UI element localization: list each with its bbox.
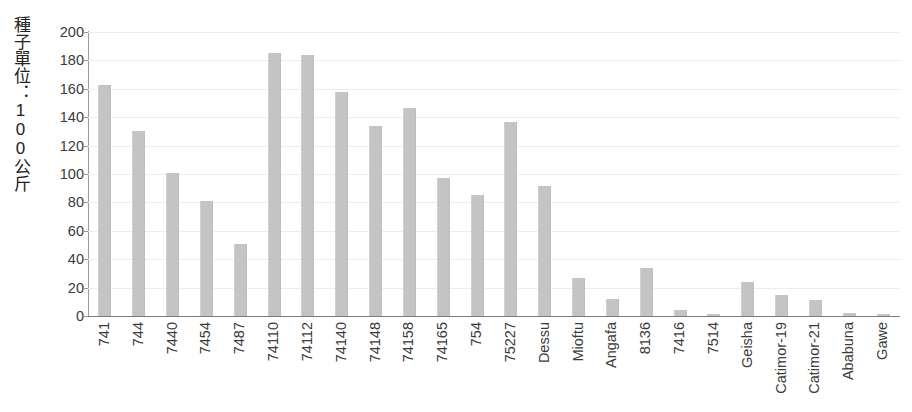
x-tick-label-wrap: Catimor-19 xyxy=(774,322,790,406)
x-tick-label: Mioftu xyxy=(571,322,586,362)
x-tick-label: 74112 xyxy=(300,322,315,361)
bar xyxy=(98,85,111,316)
y-tick-label: 100 xyxy=(50,167,84,182)
x-tick-label: 74165 xyxy=(435,322,450,362)
y-axis-title: 種子單位：100公斤 xyxy=(2,16,30,316)
bar xyxy=(707,314,720,316)
bottom-caption xyxy=(170,406,500,412)
x-tick-label-wrap: 8136 xyxy=(638,322,654,406)
x-tick-label-wrap: 7416 xyxy=(672,322,688,406)
y-tick-mark xyxy=(83,117,88,118)
x-tick-label: 8136 xyxy=(638,322,653,354)
y-tick-mark xyxy=(83,60,88,61)
x-tick-label-wrap: 75227 xyxy=(503,322,519,406)
bar xyxy=(843,313,856,316)
x-tick-label-wrap: 74112 xyxy=(300,322,316,406)
x-tick-label: 74158 xyxy=(401,322,416,362)
y-tick-mark xyxy=(83,146,88,147)
y-tick-label: 200 xyxy=(50,25,84,40)
bar xyxy=(234,244,247,316)
x-tick-label: 7440 xyxy=(165,322,180,354)
bar xyxy=(504,122,517,316)
x-tick-label: 754 xyxy=(469,322,484,346)
y-tick-mark xyxy=(83,259,88,260)
y-tick-mark xyxy=(83,316,88,317)
y-tick-mark xyxy=(83,174,88,175)
bar xyxy=(403,108,416,316)
x-tick-label-wrap: 7454 xyxy=(198,322,214,406)
bar xyxy=(640,268,653,316)
y-tick-label: 140 xyxy=(50,110,84,125)
y-tick-label: 180 xyxy=(50,53,84,68)
x-tick-label-wrap: Angafa xyxy=(604,322,620,406)
gridline xyxy=(88,32,900,33)
x-tick-label: 7514 xyxy=(706,322,721,354)
x-tick-label-wrap: Catimor-21 xyxy=(807,322,823,406)
y-tick-label: 160 xyxy=(50,82,84,97)
bar xyxy=(471,195,484,316)
x-tick-label: Geisha xyxy=(740,322,755,368)
bar xyxy=(741,282,754,316)
x-tick-label: 744 xyxy=(131,322,146,346)
x-tick-label-wrap: 74110 xyxy=(266,322,282,406)
x-tick-label: 741 xyxy=(97,322,112,346)
bar xyxy=(335,92,348,316)
bar xyxy=(437,178,450,316)
x-tick-label-wrap: 7440 xyxy=(165,322,181,406)
x-tick-label-wrap: 74158 xyxy=(401,322,417,406)
x-tick-label: 74148 xyxy=(368,322,383,362)
bar-chart: 種子單位：100公斤 020406080100120140160180200 7… xyxy=(0,0,912,412)
x-tick-label: Angafa xyxy=(604,322,619,368)
x-tick-label: 7416 xyxy=(672,322,687,354)
bar xyxy=(166,173,179,316)
x-tick-label: Dessu xyxy=(537,322,552,363)
y-tick-label: 120 xyxy=(50,138,84,153)
bar xyxy=(809,300,822,316)
x-tick-label-wrap: 74165 xyxy=(435,322,451,406)
y-tick-label: 40 xyxy=(50,252,84,267)
x-axis-tick-labels: 7417447440745474877411074112741407414874… xyxy=(88,320,900,406)
x-tick-label-wrap: Gawe xyxy=(875,322,891,406)
x-axis-line xyxy=(88,316,900,317)
x-tick-label: 7454 xyxy=(198,322,213,354)
bar xyxy=(877,314,890,316)
x-tick-label: Ababuna xyxy=(841,322,856,380)
bar xyxy=(132,131,145,316)
y-tick-label: 60 xyxy=(50,224,84,239)
plot-area xyxy=(88,32,900,316)
x-tick-label-wrap: 741 xyxy=(97,322,113,406)
gridline xyxy=(88,117,900,118)
x-tick-label-wrap: Ababuna xyxy=(841,322,857,406)
bar xyxy=(369,126,382,316)
x-tick-label-wrap: Mioftu xyxy=(571,322,587,406)
bar xyxy=(301,55,314,316)
y-axis-tick-labels: 020406080100120140160180200 xyxy=(44,0,84,412)
bar xyxy=(538,186,551,316)
x-tick-label: Catimor-21 xyxy=(807,322,822,394)
x-tick-label-wrap: 7487 xyxy=(232,322,248,406)
y-tick-mark xyxy=(83,288,88,289)
gridline xyxy=(88,60,900,61)
y-tick-label: 20 xyxy=(50,280,84,295)
gridline xyxy=(88,89,900,90)
x-tick-label-wrap: 7514 xyxy=(706,322,722,406)
bar xyxy=(674,310,687,316)
x-tick-label-wrap: 754 xyxy=(469,322,485,406)
x-tick-label: 75227 xyxy=(503,322,518,362)
bar xyxy=(775,295,788,316)
y-tick-mark xyxy=(83,231,88,232)
y-tick-mark xyxy=(83,32,88,33)
bar xyxy=(572,278,585,316)
x-tick-label-wrap: Geisha xyxy=(740,322,756,406)
x-tick-label: 74140 xyxy=(334,322,349,362)
bar xyxy=(200,201,213,316)
x-tick-label: 74110 xyxy=(266,322,281,361)
x-tick-label-wrap: 74140 xyxy=(334,322,350,406)
y-tick-label: 80 xyxy=(50,195,84,210)
x-tick-label-wrap: Dessu xyxy=(537,322,553,406)
y-tick-label: 0 xyxy=(50,309,84,324)
bar xyxy=(268,53,281,316)
gridline xyxy=(88,174,900,175)
y-tick-mark xyxy=(83,202,88,203)
x-tick-label: Catimor-19 xyxy=(774,322,789,394)
